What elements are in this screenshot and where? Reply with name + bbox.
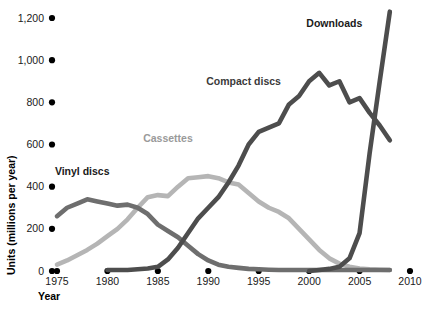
y-tick-dot (49, 99, 55, 105)
y-tick-dot (49, 141, 55, 147)
x-tick-label: 2000 (297, 275, 321, 287)
y-tick-label: 600 (26, 138, 44, 150)
series-label-cassettes: Cassettes (143, 132, 193, 144)
x-tick-dot (205, 268, 211, 274)
y-tick-label: 1,000 (18, 54, 44, 66)
series-label-downloads: Downloads (306, 17, 362, 29)
x-axis-title: Year (38, 290, 60, 302)
y-tick-label: 0 (38, 265, 44, 277)
y-tick-label: 800 (26, 96, 44, 108)
y-tick-dot (49, 15, 55, 21)
y-tick-dot (49, 57, 55, 63)
music-format-sales-chart: 02004006008001,0001,200 1975198019851990… (0, 0, 428, 315)
x-tick-label: 2005 (348, 275, 372, 287)
x-tick-label: 1975 (45, 275, 69, 287)
y-tick-dot (49, 184, 55, 190)
series-label-compact-discs: Compact discs (206, 75, 281, 87)
y-tick-dot (49, 226, 55, 232)
y-tick-label: 1,200 (18, 12, 44, 24)
y-tick-label: 200 (26, 222, 44, 234)
x-tick-label: 1980 (96, 275, 120, 287)
x-tick-label: 2010 (398, 275, 422, 287)
chart-svg: 02004006008001,0001,200 1975198019851990… (0, 0, 428, 315)
x-tick-dot (407, 268, 413, 274)
x-tick-label: 1995 (247, 275, 271, 287)
y-axis-title: Units (millions per year) (5, 155, 17, 275)
x-tick-dot (54, 268, 60, 274)
y-tick-label: 400 (26, 180, 44, 192)
x-tick-label: 1985 (146, 275, 170, 287)
x-tick-label: 1990 (197, 275, 221, 287)
series-label-vinyl-discs: Vinyl discs (55, 165, 110, 177)
